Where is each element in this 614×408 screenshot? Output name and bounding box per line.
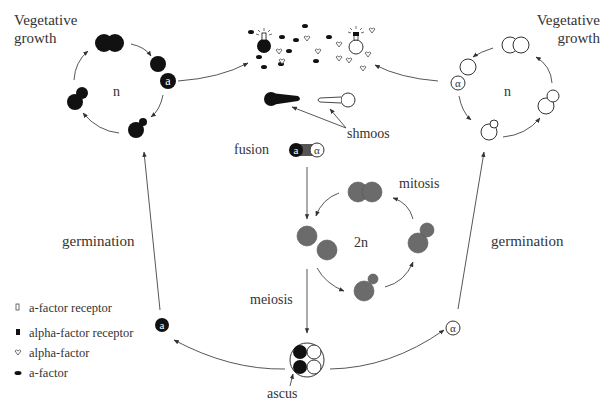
ascus-to-a-spore-arrow [174,340,285,369]
diploid-arrow-1 [316,193,339,216]
ascus [290,343,324,377]
diploid-arrow-2 [317,268,344,291]
a-badge-left-cycle: a [160,73,176,89]
grey-budding-cell-bottom [354,274,378,301]
spore-a: a [155,318,169,332]
fusion-a-badge: a [294,144,299,156]
white-cell-pair-top [502,37,529,53]
left-vegetative-growth-label-line1: Vegetative [14,12,78,28]
arrow-alpha-to-pheromone [375,65,438,81]
svg-text:alpha-factor: alpha-factor [29,346,90,360]
left-vegetative-growth-label-line2: growth [14,30,57,46]
meiosis-ascus: meiosis ascus [174,269,444,401]
arrow-a-to-pheromone [178,63,248,81]
right-ploidy-label: n [504,84,511,99]
left-haploid-cycle: Vegetative growth n a [14,12,176,138]
svg-text:alpha-factor receptor: alpha-factor receptor [29,326,134,340]
ascus-to-alpha-spore-arrow [330,330,444,369]
legend-item-alpha-factor-receptor: alpha-factor receptor [16,326,134,340]
left-cycle-arrow-1 [131,44,151,56]
ascus-label: ascus [267,386,297,401]
svg-text:a-factor: a-factor [29,366,69,380]
germination-left-arrow [144,152,160,310]
svg-text:a: a [165,74,171,88]
white-shmoo [318,93,355,107]
black-cell-pair-top [95,34,124,52]
diploid-ploidy-label: 2n [354,235,368,250]
legend: a-factor receptor alpha-factor receptor … [15,301,135,380]
alpha-cell-with-receptor [348,26,364,54]
white-cell-left [460,59,476,75]
black-budding-cell-left [67,87,88,110]
shmoos-label: shmoos [347,126,390,141]
grey-cell-pair-top [348,182,382,202]
diploid-cycle: mitosis 2n [297,176,439,301]
svg-text:α: α [450,322,456,334]
right-cycle-arrow-4 [536,57,552,83]
left-cycle-arrow-3 [83,113,119,133]
alpha-factor-icon [15,350,21,355]
left-cycle-arrow-2 [151,95,163,117]
diploid-arrow-3 [385,262,413,287]
left-ploidy-label: n [113,84,120,99]
black-budding-cell-bottom [128,118,147,138]
germination-right-arrow [458,152,484,309]
shmoos-pointer-arrow-1 [292,107,346,128]
a-cell-with-receptor [256,28,272,53]
alpha-factor-receptor-icon [16,329,20,335]
fusion-alpha-badge: α [314,144,320,156]
pheromone-exchange [178,24,438,81]
ascus-pointer-arrow [290,374,293,386]
germination-right-label: germination [491,233,564,249]
right-cycle-arrow-1 [473,48,493,57]
white-budding-cell-bottom [481,120,498,140]
svg-text:α: α [455,77,461,89]
yeast-life-cycle-diagram: Vegetative growth n a Vegetative growth [0,0,614,408]
fusion: fusion a α [234,142,324,219]
right-vegetative-growth-label-line2: growth [558,30,601,46]
alpha-badge-right-cycle: α [451,76,465,90]
white-budding-cell-right [538,90,559,114]
spore-alpha: α [446,321,460,335]
mitosis-label: mitosis [399,176,439,191]
legend-item-a-factor-receptor: a-factor receptor [16,301,113,315]
grey-budding-cell-right [408,223,434,253]
left-cycle-arrow-4 [74,51,88,80]
svg-text:a: a [160,319,165,331]
black-cell-right [150,56,166,72]
grey-cell-left-2 [317,240,337,260]
right-cycle-arrow-2 [459,96,471,120]
shmoos: shmoos [264,92,390,141]
right-cycle-arrow-3 [503,118,540,137]
svg-text:a-factor receptor: a-factor receptor [29,301,113,315]
a-factor-receptor-icon [16,304,19,310]
right-vegetative-growth-label-line1: Vegetative [537,12,601,28]
legend-item-a-factor: a-factor [15,366,69,380]
meiosis-label: meiosis [250,292,293,307]
grey-cell-left-1 [297,226,317,246]
fusion-label: fusion [234,142,269,157]
legend-item-alpha-factor: alpha-factor [15,346,90,360]
right-haploid-cycle: Vegetative growth n α [451,12,600,140]
a-factor-icon [15,371,22,375]
germination-left-label: germination [62,233,135,249]
black-shmoo [264,92,300,106]
diploid-arrow-4 [393,198,413,219]
